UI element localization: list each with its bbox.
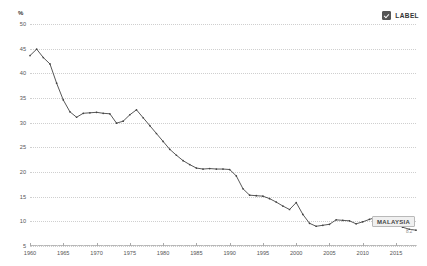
x-axis-tick-label: 1995 <box>257 250 269 256</box>
y-axis-tick-label: 35 <box>20 95 26 101</box>
data-point[interactable] <box>342 220 344 222</box>
y-axis-tick-label: 20 <box>20 169 26 175</box>
series-line-malaysia <box>30 24 416 246</box>
data-point[interactable] <box>189 164 191 166</box>
y-axis-tick-label: 40 <box>20 70 26 76</box>
data-point[interactable] <box>362 221 364 223</box>
data-point[interactable] <box>215 168 217 170</box>
data-point[interactable] <box>229 169 231 171</box>
data-point[interactable] <box>36 48 38 50</box>
y-axis-unit-label: % <box>18 10 24 16</box>
data-point[interactable] <box>76 116 78 118</box>
legend-item-label[interactable]: LABEL <box>395 12 419 19</box>
y-axis-tick-label: 5 <box>23 243 26 249</box>
x-axis-tick-label: 2015 <box>390 250 402 256</box>
data-point[interactable] <box>149 125 151 127</box>
data-point[interactable] <box>315 225 317 227</box>
x-axis-tick-label: 2010 <box>357 250 369 256</box>
data-point[interactable] <box>289 209 291 211</box>
plot-area: 5101520253035404550 19601965197019751980… <box>30 24 416 246</box>
data-point[interactable] <box>156 133 158 135</box>
data-point[interactable] <box>69 111 71 113</box>
data-point[interactable] <box>162 141 164 143</box>
data-point[interactable] <box>136 109 138 111</box>
data-point[interactable] <box>415 229 417 231</box>
data-point[interactable] <box>176 154 178 156</box>
x-axis-ticks: 1960196519701975198019851990199520002005… <box>30 246 416 262</box>
data-point[interactable] <box>142 117 144 119</box>
country-callout-value: 8.2 <box>406 229 412 234</box>
chart-legend: LABEL <box>382 11 419 20</box>
data-point[interactable] <box>269 198 271 200</box>
data-point[interactable] <box>262 195 264 197</box>
data-point[interactable] <box>202 168 204 170</box>
data-point[interactable] <box>355 223 357 225</box>
x-axis-tick-label: 1965 <box>57 250 69 256</box>
data-point[interactable] <box>282 205 284 207</box>
data-point[interactable] <box>222 168 224 170</box>
x-axis-tick-label: 1990 <box>223 250 235 256</box>
data-point[interactable] <box>169 148 171 150</box>
series-path <box>30 49 416 230</box>
data-point[interactable] <box>96 111 98 113</box>
x-axis-tick-label: 1975 <box>124 250 136 256</box>
data-point[interactable] <box>349 220 351 222</box>
data-point[interactable] <box>62 99 64 101</box>
data-point[interactable] <box>302 214 304 216</box>
data-point[interactable] <box>209 168 211 170</box>
x-axis-tick-label: 1980 <box>157 250 169 256</box>
y-axis-tick-label: 50 <box>20 21 26 27</box>
data-point[interactable] <box>82 112 84 114</box>
data-point[interactable] <box>275 201 277 203</box>
data-point[interactable] <box>255 195 257 197</box>
data-point[interactable] <box>249 194 251 196</box>
x-axis-tick-label: 1970 <box>90 250 102 256</box>
legend-checkbox[interactable] <box>382 11 391 20</box>
data-point[interactable] <box>42 57 44 59</box>
y-axis-tick-label: 25 <box>20 144 26 150</box>
data-point[interactable] <box>235 175 237 177</box>
y-axis-tick-label: 30 <box>20 120 26 126</box>
data-point[interactable] <box>182 160 184 162</box>
data-point[interactable] <box>49 63 51 65</box>
country-callout-malaysia[interactable]: MALAYSIA <box>372 216 415 227</box>
data-point[interactable] <box>129 114 131 116</box>
data-point[interactable] <box>29 55 31 57</box>
data-point[interactable] <box>242 188 244 190</box>
y-axis-tick-label: 45 <box>20 46 26 52</box>
data-point[interactable] <box>116 122 118 124</box>
x-axis-tick-label: 2000 <box>290 250 302 256</box>
y-axis-tick-label: 10 <box>20 218 26 224</box>
data-point[interactable] <box>329 223 331 225</box>
data-point[interactable] <box>109 113 111 115</box>
x-axis-tick-label: 1985 <box>190 250 202 256</box>
x-axis-minor-tick <box>416 245 417 247</box>
data-point[interactable] <box>122 120 124 122</box>
data-point[interactable] <box>369 219 371 221</box>
x-axis-tick-label: 2005 <box>323 250 335 256</box>
data-point[interactable] <box>56 82 58 84</box>
data-point[interactable] <box>102 112 104 114</box>
data-point[interactable] <box>196 167 198 169</box>
line-chart: % LABEL 5101520253035404550 196019651970… <box>0 0 427 266</box>
data-point[interactable] <box>309 222 311 224</box>
data-point[interactable] <box>295 202 297 204</box>
x-axis-tick-label: 1960 <box>24 250 36 256</box>
data-point[interactable] <box>322 224 324 226</box>
data-point[interactable] <box>335 219 337 221</box>
data-point[interactable] <box>89 112 91 114</box>
y-axis-tick-label: 15 <box>20 194 26 200</box>
